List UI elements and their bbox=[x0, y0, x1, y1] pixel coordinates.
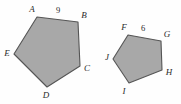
vertex-label-a: A bbox=[28, 4, 35, 14]
vertex-label-c: C bbox=[84, 63, 91, 73]
vertex-label-f: F bbox=[120, 22, 127, 32]
vertex-label-h: H bbox=[165, 67, 173, 77]
side-length-label-ab: 9 bbox=[56, 5, 60, 15]
vertex-label-d: D bbox=[42, 90, 50, 100]
pentagon-abcde-group: A B C D E 9 bbox=[3, 4, 91, 100]
pentagon-fghij-group: F G H I J 6 bbox=[105, 22, 173, 96]
pentagon-fghij-shape bbox=[113, 35, 162, 83]
vertex-label-i: I bbox=[122, 86, 127, 96]
figure-canvas: A B C D E 9 F G H I J 6 bbox=[0, 0, 181, 104]
side-length-label-fg: 6 bbox=[141, 23, 145, 33]
vertex-label-b: B bbox=[81, 10, 87, 20]
vertex-label-g: G bbox=[164, 29, 171, 39]
vertex-label-e: E bbox=[3, 48, 10, 58]
pentagon-abcde-shape bbox=[14, 17, 80, 87]
vertex-label-j: J bbox=[105, 52, 110, 62]
geometry-figure-svg: A B C D E 9 F G H I J 6 bbox=[0, 0, 181, 104]
